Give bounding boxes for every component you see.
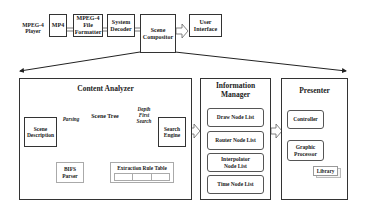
mp4-box: MP4 xyxy=(49,14,67,37)
scene-tree-label: Scene Tree xyxy=(86,113,124,120)
arrow-to-ui xyxy=(176,24,188,38)
bifs-parser-box: BIFS Parser xyxy=(56,162,84,183)
content-analyzer-title: Content Analyzer xyxy=(20,85,191,94)
presenter-panel: Presenter xyxy=(281,78,348,200)
interpolator-node-list: Interpolator Node List xyxy=(207,153,264,172)
search-engine-box: Search Engine xyxy=(158,117,186,147)
draw-node-list: Draw Node List xyxy=(207,108,264,127)
scene-compositor-box: Scene Compositor xyxy=(140,14,176,53)
file-formatter-box: MPEG-4 File Formatter xyxy=(73,14,103,37)
controller-box: Controller xyxy=(287,110,324,129)
dfs-label: Depth First Search xyxy=(131,106,157,125)
extraction-rule-table-label: Extraction Rule Table xyxy=(111,165,173,171)
information-manager-title: Information Manager xyxy=(201,82,270,99)
parsing-label: Parsing xyxy=(58,116,84,122)
system-decoder-box: System Decoder xyxy=(107,14,135,37)
presenter-title: Presenter xyxy=(282,87,347,96)
time-node-list: Time Node List xyxy=(207,175,264,194)
library-box: Library xyxy=(313,166,338,176)
mpeg4-player-label: MPEG-4 Player xyxy=(20,22,46,35)
scene-description-box: Scene Description xyxy=(24,117,57,147)
router-node-list: Router Node List xyxy=(207,131,264,150)
user-interface-box: User Interface xyxy=(189,14,222,37)
extraction-rule-table: Extraction Rule Table xyxy=(110,162,174,183)
rule-table-cells xyxy=(114,173,170,181)
graphic-processor-box: Graphic Processor xyxy=(287,140,324,161)
